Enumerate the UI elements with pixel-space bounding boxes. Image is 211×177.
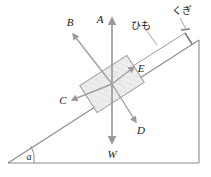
nail-peg (181, 29, 192, 44)
nail-leader-line (180, 18, 186, 29)
vector-c-label: C (59, 94, 67, 106)
vector-a-label: A (96, 13, 104, 25)
vector-b-label: B (67, 16, 74, 28)
annotation-leaders (146, 18, 186, 45)
weight-label: W (107, 148, 117, 160)
incline-angle-label: a (27, 151, 32, 162)
string-annotation-label: ひも (131, 20, 151, 31)
vector-d-label: D (136, 124, 145, 136)
inclined-plane-figure: a A B (0, 0, 211, 177)
vector-b (73, 34, 112, 84)
nail-annotation-label: くぎ (172, 4, 192, 16)
figure-canvas: a A B (0, 0, 211, 177)
nail-head (181, 29, 190, 30)
vector-b-shaft (73, 34, 112, 84)
string-leader-line (146, 30, 157, 45)
incline-angle-marker (31, 146, 34, 163)
nail-shaft (185, 33, 192, 44)
vector-e-label: E (137, 62, 145, 74)
